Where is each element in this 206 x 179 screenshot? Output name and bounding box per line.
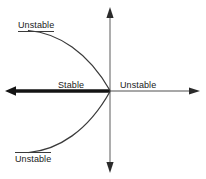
label-unstable-right-branch: Unstable	[120, 80, 156, 90]
vertical-axis-arrow-up-icon	[106, 7, 113, 18]
unstable-parabola-lower-branch	[29, 92, 111, 153]
vertical-axis-arrow-down-icon	[106, 162, 113, 173]
label-stable-branch: Stable	[58, 80, 84, 90]
label-unstable-upper-branch: Unstable	[18, 20, 54, 32]
bifurcation-diagram: Unstable Unstable Stable Unstable	[0, 0, 206, 179]
horizontal-axis-arrow-right-icon	[189, 87, 200, 94]
label-unstable-lower-branch: Unstable	[15, 152, 51, 164]
horizontal-axis-arrow-left-icon	[5, 86, 16, 96]
